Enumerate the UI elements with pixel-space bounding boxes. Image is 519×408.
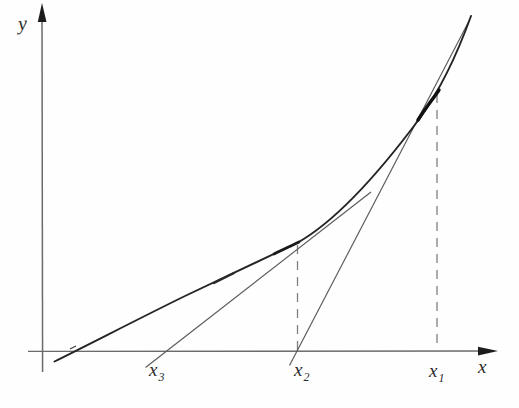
x-axis-label: x	[478, 357, 486, 376]
tangent-line-at-x2	[146, 192, 372, 368]
tick-label-x2-base: x	[294, 359, 302, 380]
tangency-ink-x2	[274, 242, 299, 254]
figure-canvas	[0, 0, 519, 408]
x-axis-arrowhead	[478, 347, 498, 356]
tick-label-x1-base: x	[429, 360, 437, 381]
tick-label-x2-subscript: 2	[303, 370, 309, 384]
tick-label-x3: x3	[149, 360, 163, 379]
tick-label-x3-subscript: 3	[158, 370, 164, 384]
tick-label-x2: x2	[294, 360, 308, 379]
function-curve	[55, 16, 472, 362]
tangency-ink-x3	[214, 273, 234, 283]
y-axis-label: y	[17, 13, 27, 34]
newton-method-figure: y x x1 x2 x3	[0, 0, 519, 408]
curve-axis-crossing-tick	[70, 346, 76, 349]
y-axis-arrowhead	[38, 3, 47, 22]
tangent-line-at-x1	[290, 21, 470, 366]
tick-label-x3-base: x	[149, 359, 157, 380]
tick-label-x1: x1	[429, 361, 443, 380]
y-axis-line	[42, 14, 43, 372]
tangency-ink-x1	[418, 90, 439, 120]
tick-label-x1-subscript: 1	[438, 371, 444, 385]
